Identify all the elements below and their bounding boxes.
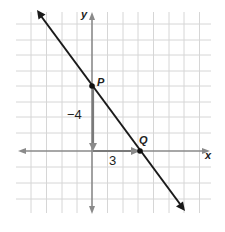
point-q-label: Q [139,135,148,146]
rise-label: −4 [67,108,82,121]
slope-rise-arrow [89,86,97,151]
point-p-label: P [97,77,104,88]
y-axis-label: y [81,9,87,20]
point-p-marker [89,83,95,89]
run-label: 3 [109,154,116,167]
slope-run-arrow [93,147,140,155]
coordinate-plane: y x P Q −4 3 [0,0,225,232]
x-axis-label: x [205,150,211,161]
point-q-marker [137,148,143,154]
